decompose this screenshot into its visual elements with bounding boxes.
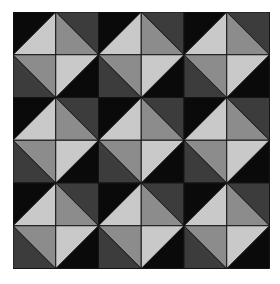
quilt-pattern xyxy=(13,12,270,270)
